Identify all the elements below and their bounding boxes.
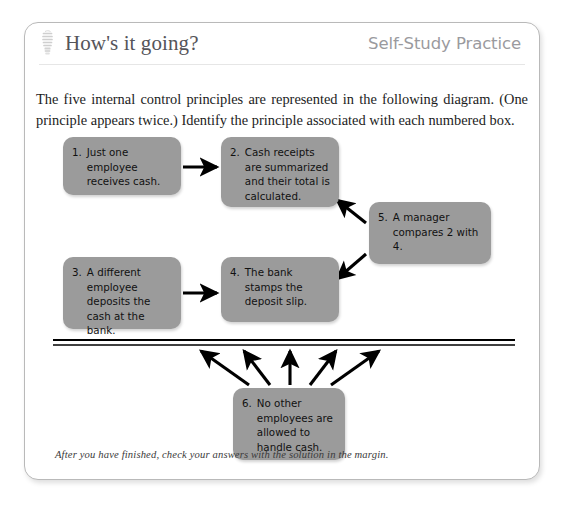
lightbulb-icon	[39, 30, 56, 56]
node-text: A different employee deposits the cash a…	[87, 265, 173, 338]
diagram-node-1[interactable]: 1. Just one employee receives cash.	[63, 137, 181, 195]
diagram-node-4[interactable]: 4. The bank stamps the deposit slip.	[221, 257, 339, 322]
node-number: 3.	[72, 265, 82, 280]
node-text: Just one employee receives cash.	[87, 145, 173, 189]
double-rule	[53, 340, 515, 345]
node-text: A manager compares 2 with 4.	[393, 210, 483, 254]
node-text: Cash receipts are summarized and their t…	[245, 145, 331, 203]
diagram-node-5[interactable]: 5. A manager compares 2 with 4.	[369, 202, 491, 264]
node-text: The bank stamps the deposit slip.	[245, 265, 331, 309]
connector-fan-6-to-rule	[201, 351, 379, 385]
node-number: 6.	[242, 396, 252, 411]
footer-note: After you have finished, check your answ…	[55, 449, 495, 460]
node-number: 1.	[72, 145, 82, 160]
card-header-left: How's it going?	[39, 30, 199, 56]
diagram-node-2[interactable]: 2. Cash receipts are summarized and thei…	[221, 137, 339, 207]
instructions-paragraph: The five internal control principles are…	[36, 89, 528, 130]
header-divider	[39, 64, 525, 65]
page-title: How's it going?	[65, 31, 199, 56]
node-text: No other employees are allowed to handle…	[257, 396, 337, 454]
section-label: Self-Study Practice	[368, 34, 521, 53]
node-number: 2.	[230, 145, 240, 160]
node-number: 5.	[378, 210, 388, 225]
connector-5-to-2	[337, 200, 366, 223]
page-root: How's it going? Self-Study Practice The …	[0, 0, 569, 518]
diagram-node-3[interactable]: 3. A different employee deposits the cas…	[63, 257, 181, 329]
card-header: How's it going? Self-Study Practice	[25, 23, 539, 63]
internal-control-diagram: 1. Just one employee receives cash. 2. C…	[25, 127, 541, 445]
self-study-practice-card: How's it going? Self-Study Practice The …	[24, 22, 540, 480]
connector-5-to-4	[337, 254, 366, 279]
node-number: 4.	[230, 265, 240, 280]
